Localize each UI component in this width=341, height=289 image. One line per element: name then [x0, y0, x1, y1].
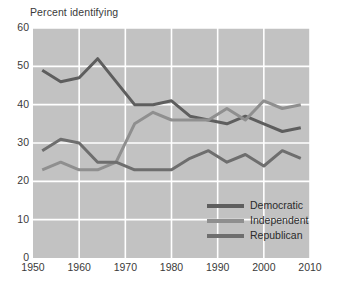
- y-axis-tick-label: 30: [2, 136, 29, 148]
- chart-figure: Percent identifying 0102030405060 195019…: [0, 0, 341, 289]
- y-axis-tick-label: 50: [2, 59, 29, 71]
- x-axis-tick-label: 2000: [247, 261, 281, 273]
- legend-item-republican[interactable]: Republican: [207, 228, 317, 243]
- x-axis-tick-label: 1980: [155, 261, 189, 273]
- y-axis-tick-label: 20: [2, 174, 29, 186]
- legend-item-democratic[interactable]: Democratic: [207, 198, 317, 213]
- y-axis-tick-label: 10: [2, 213, 29, 225]
- y-axis-tick-label: 60: [2, 21, 29, 33]
- x-axis-tick-label: 2010: [293, 261, 327, 273]
- x-axis-tick-label: 1960: [62, 261, 96, 273]
- legend-label: Republican: [250, 230, 303, 241]
- y-axis-tick-label: 40: [2, 98, 29, 110]
- x-axis-tick-label: 1970: [108, 261, 142, 273]
- legend-label: Independent: [250, 215, 308, 226]
- legend-swatch-icon: [207, 234, 244, 238]
- x-axis-tick-label: 1950: [16, 261, 50, 273]
- chart-title: Percent identifying: [30, 6, 118, 18]
- legend-item-independent[interactable]: Independent: [207, 213, 317, 228]
- legend-label: Democratic: [250, 200, 303, 211]
- legend-swatch-icon: [207, 204, 244, 208]
- chart-legend: DemocraticIndependentRepublican: [207, 198, 317, 243]
- x-axis-tick-label: 1990: [201, 261, 235, 273]
- legend-swatch-icon: [207, 219, 244, 223]
